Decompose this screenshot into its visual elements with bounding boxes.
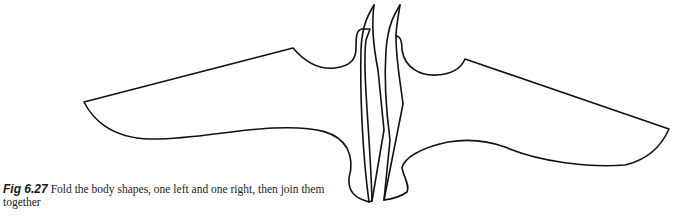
figure-caption-text: Fold the body shapes, one left and one r… (3, 183, 324, 208)
figure-caption: Fig 6.27Fold the body shapes, one left a… (3, 183, 343, 209)
right-fold-panel (384, 5, 400, 200)
left-body-shape (84, 29, 372, 202)
figure-label: Fig 6.27 (3, 182, 48, 196)
figure: Fig 6.27Fold the body shapes, one left a… (0, 0, 683, 223)
left-fold-inner-line (372, 5, 384, 201)
right-body-shape (384, 36, 669, 200)
